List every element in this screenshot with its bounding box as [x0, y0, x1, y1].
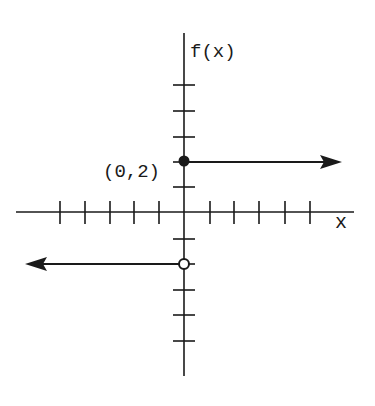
piecewise-graph: f(x) x (0,2)	[0, 0, 375, 406]
point-label: (0,2)	[103, 161, 160, 183]
open-dot	[179, 259, 189, 269]
closed-dot	[179, 156, 190, 167]
x-axis-label: x	[335, 211, 347, 234]
y-axis-label: f(x)	[190, 41, 236, 63]
upper-ray	[179, 155, 343, 169]
lower-ray	[25, 257, 189, 271]
